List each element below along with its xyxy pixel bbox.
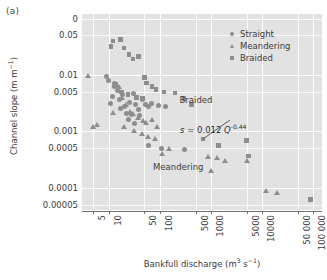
x-tick-label: 1000 (215, 215, 225, 237)
plot-area: Braided Meandering s = 0.012 Q-0.44 Stra… (82, 14, 322, 210)
y-tick-label: 0.005 (54, 87, 78, 97)
x-tick-label: 50 (148, 215, 158, 226)
triangle-marker-icon (227, 44, 237, 48)
y-tick-label: 0.05 (59, 30, 78, 40)
y-tick-label: 0.01 (59, 70, 78, 80)
legend-item-meandering[interactable]: Meandering (227, 40, 290, 52)
y-tick-label: 0.0005 (48, 143, 78, 153)
x-tick-label: 10000 (266, 215, 276, 242)
x-axis-title-end: ) (257, 259, 260, 269)
x-tick-mark (247, 211, 248, 214)
square-marker-icon (227, 56, 237, 60)
power-law-annotation: s = 0.012 Q-0.44 (180, 123, 246, 135)
y-axis-title-main: Channel slope (m m (9, 69, 19, 155)
x-tick-mark (109, 211, 110, 214)
y-tick-label: 0.001 (54, 126, 78, 136)
x-tick-mark (93, 211, 94, 214)
legend: StraightMeanderingBraided (227, 28, 290, 64)
x-tick-mark (298, 211, 299, 214)
x-axis-title-a: Bankfull discharge (m (144, 259, 237, 269)
x-tick-label: 100 (164, 215, 174, 231)
y-axis-title-exponent: −1 (7, 60, 14, 69)
x-tick-mark (262, 211, 263, 214)
circle-marker-icon (227, 32, 237, 36)
x-tick-label: 5 (97, 215, 107, 220)
x-tick-mark (144, 211, 145, 214)
x-axis-title: Bankfull discharge (m3 s−1) (82, 257, 322, 269)
x-axis-tick-labels: 51050100500100050001000050 000100 000 (0, 211, 322, 261)
y-tick-label: 0.00005 (43, 200, 78, 210)
x-tick-mark (160, 211, 161, 214)
y-axis-title: Channel slope (m m−1) (7, 31, 19, 181)
x-tick-label: 500 (200, 215, 210, 231)
legend-item-label: Straight (240, 29, 274, 39)
legend-item-straight[interactable]: Straight (227, 28, 290, 40)
x-tick-mark (313, 211, 314, 214)
x-tick-label: 10 (113, 215, 123, 226)
x-tick-label: 50 000 (302, 215, 312, 245)
x-axis-title-b: s (241, 259, 248, 269)
y-tick-label: 0.0001 (48, 183, 78, 193)
x-tick-mark (211, 211, 212, 214)
x-tick-label: 5000 (251, 215, 261, 237)
y-tick-label: 0 (73, 14, 78, 24)
x-tick-label: 100 000 (317, 215, 327, 250)
x-tick-mark (196, 211, 197, 214)
y-axis-title-end: ) (9, 57, 19, 60)
legend-item-label: Meandering (240, 41, 290, 51)
legend-item-label: Braided (240, 53, 273, 63)
legend-item-braided[interactable]: Braided (227, 52, 290, 64)
x-axis-title-sup2: −1 (248, 257, 257, 264)
